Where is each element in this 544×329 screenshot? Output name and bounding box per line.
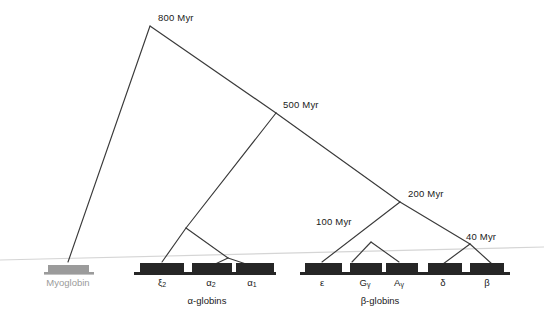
gene-boxes (48, 263, 504, 272)
branch-root-n500 (150, 26, 276, 113)
gene-label-myoglobin: Myoglobin (46, 277, 89, 288)
gene-box-zeta2 (140, 263, 184, 272)
tree-branches (68, 26, 492, 266)
cluster-label-alpha-globins: α-globins (188, 295, 227, 306)
gene-box-epsilon (305, 263, 342, 272)
node-label-40myr: 40 Myr (466, 231, 496, 242)
gene-label-Agamma: Aγ (394, 277, 404, 288)
gene-label-beta: β (484, 277, 489, 288)
cluster-label-beta-globins: β-globins (361, 295, 400, 306)
branch-n500-alpha (186, 113, 276, 228)
chromosome-bars (44, 272, 510, 275)
gene-label-Ggamma: Gγ (360, 277, 371, 288)
chromosome-bar-beta (300, 272, 510, 275)
gene-label-delta: δ (440, 277, 445, 288)
gene-label-Agamma-sub: γ (400, 281, 404, 288)
gene-box-beta (470, 263, 504, 272)
gene-label-beta-base: β (484, 277, 489, 288)
chromosome-bar-alpha (134, 272, 276, 275)
globin-phylogeny-figure: 800 Myr 500 Myr 200 Myr 100 Myr 40 Myr M… (0, 0, 544, 329)
gene-label-zeta2-sub: 2 (162, 281, 166, 288)
gene-label-zeta2: ξ2 (158, 277, 166, 288)
chromosome-bar-myoglobin (44, 272, 94, 275)
gene-label-epsilon: ε (320, 277, 324, 288)
branch-n200-n40 (400, 202, 470, 244)
branch-alpha-zeta2 (162, 228, 186, 262)
gene-box-delta (428, 263, 462, 272)
gene-box-myoglobin (48, 265, 89, 272)
gene-label-alpha2: α2 (206, 277, 215, 288)
node-label-500myr: 500 Myr (283, 99, 319, 110)
gene-label-alpha2-sub: 2 (212, 281, 216, 288)
branch-n40-beta (470, 244, 492, 264)
branch-alpha-alpha-dup (186, 228, 228, 258)
gene-box-Ggamma (350, 263, 382, 272)
node-label-800myr: 800 Myr (158, 12, 194, 23)
branch-n40-delta (443, 244, 470, 264)
gene-label-alpha1-sub: 1 (253, 281, 257, 288)
gene-box-alpha1 (236, 263, 274, 272)
node-label-100myr: 100 Myr (316, 216, 352, 227)
gene-label-epsilon-base: ε (320, 277, 324, 288)
gene-box-alpha2 (192, 263, 232, 272)
gene-label-Ggamma-sub: γ (367, 281, 371, 288)
branch-n100-Agamma (371, 242, 399, 262)
node-label-200myr: 200 Myr (408, 188, 444, 199)
branch-n500-n200 (276, 113, 400, 202)
gene-label-delta-base: δ (440, 277, 445, 288)
gene-box-Agamma (386, 263, 418, 272)
gene-label-alpha1: α1 (247, 277, 256, 288)
branch-root-myoglobin (68, 26, 150, 262)
